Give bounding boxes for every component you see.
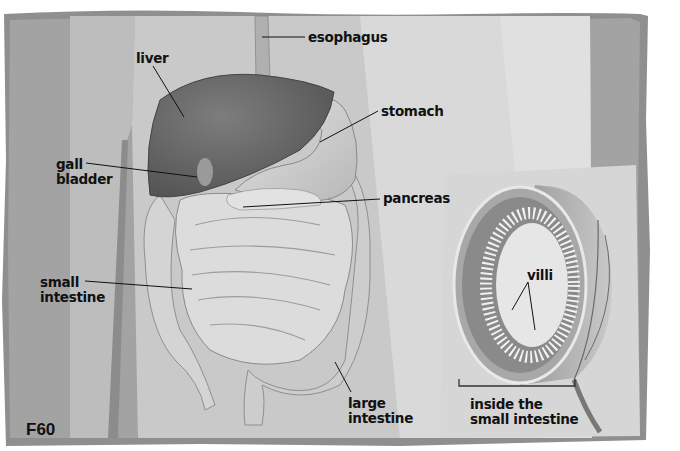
label-esophagus: esophagus [308, 30, 387, 45]
label-small-intestine: small intestine [40, 275, 105, 305]
label-villi: villi [527, 268, 553, 283]
gall-bladder-organ [197, 158, 213, 186]
pancreas-organ [227, 188, 321, 210]
label-pancreas: pancreas [383, 191, 450, 206]
label-large-intestine: large intestine [348, 396, 413, 426]
label-gall-bladder: gall bladder [56, 157, 112, 187]
label-stomach: stomach [381, 104, 443, 119]
figure-number: F60 [26, 420, 55, 440]
digestive-system-figure [0, 0, 680, 451]
label-inset-caption: inside the small intestine [470, 397, 578, 427]
label-liver: liver [136, 51, 168, 66]
